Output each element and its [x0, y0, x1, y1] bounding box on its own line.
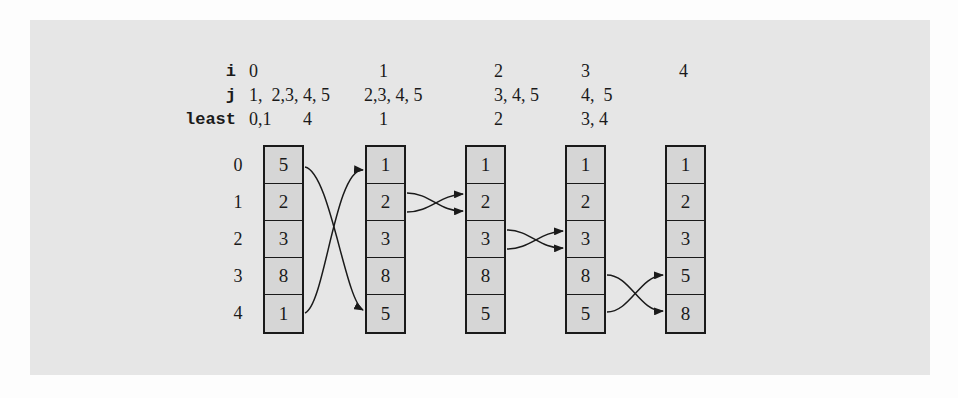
swap-arrow-4-to-0	[305, 170, 363, 313]
swap-arrow-4-to-3	[607, 275, 663, 312]
swap-arrow-2b	[507, 231, 563, 249]
swap-arrow-0-to-4	[305, 167, 363, 310]
swap-arrows	[0, 0, 958, 398]
swap-arrow-1b	[407, 194, 463, 212]
